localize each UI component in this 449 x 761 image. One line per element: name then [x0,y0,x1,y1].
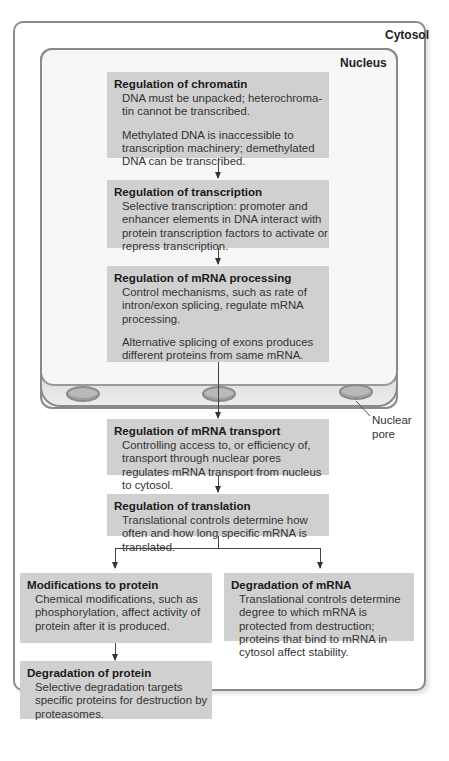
box-title: Regulation of chromatin [114,77,329,90]
protein-modification-box: Modifications to protein Chemical modifi… [20,573,212,643]
flow-arrow [218,475,219,492]
nuclear-pore-icon [202,386,236,402]
box-title: Regulation of mRNA transport [114,424,329,437]
mrna-processing-regulation-box: Regulation of mRNA processing Control me… [107,266,329,362]
flow-arrow [218,248,219,264]
box-text: Translational controls determine degree … [239,593,414,659]
mrna-degradation-box: Degradation of mRNA Translational contro… [224,573,414,641]
nucleus-label: Nucleus [340,56,387,70]
nuclear-pore-label-line2: pore [372,428,412,442]
box-text: Chemical modifications, such as phosphor… [35,593,212,633]
box-text: Selective transcription: promoter and en… [122,200,329,253]
box-text: Control mechanisms, such as rate of intr… [122,286,329,326]
mrna-transport-regulation-box: Regulation of mRNA transport Controlling… [107,419,329,475]
box-title: Degradation of mRNA [231,578,414,591]
box-title: Degradation of protein [27,666,212,679]
box-text: DNA must be unpacked; heterochroma-tin c… [122,92,329,118]
flow-arrow [218,158,219,178]
box-title: Modifications to protein [27,578,212,591]
transcription-regulation-box: Regulation of transcription Selective tr… [107,180,329,248]
box-text: Alternative splicing of exons produces d… [122,336,329,362]
branch-horizontal-line [115,548,321,549]
nuclear-pore-label-line1: Nuclear [372,414,412,428]
flow-arrow [115,548,116,568]
nuclear-pore-icon [66,386,100,402]
translation-regulation-box: Regulation of translation Translational … [107,494,329,536]
chromatin-regulation-box: Regulation of chromatin DNA must be unpa… [107,72,329,158]
box-title: Regulation of mRNA processing [114,271,329,284]
box-title: Regulation of transcription [114,185,329,198]
flow-arrow [115,643,116,660]
flow-arrow [218,362,219,418]
box-text: Controlling access to, or efficiency of,… [122,439,329,492]
box-text: Methylated DNA is inaccessible to transc… [122,129,329,169]
nuclear-pore-label: Nuclear pore [372,414,412,441]
protein-degradation-box: Degradation of protein Selective degrada… [20,661,212,719]
cytosol-label: Cytosol [385,28,429,42]
flow-arrow [320,548,321,568]
box-title: Regulation of translation [114,499,329,512]
box-text: Selective degradation targets specific p… [35,681,212,721]
nuclear-pore-icon [339,384,373,400]
